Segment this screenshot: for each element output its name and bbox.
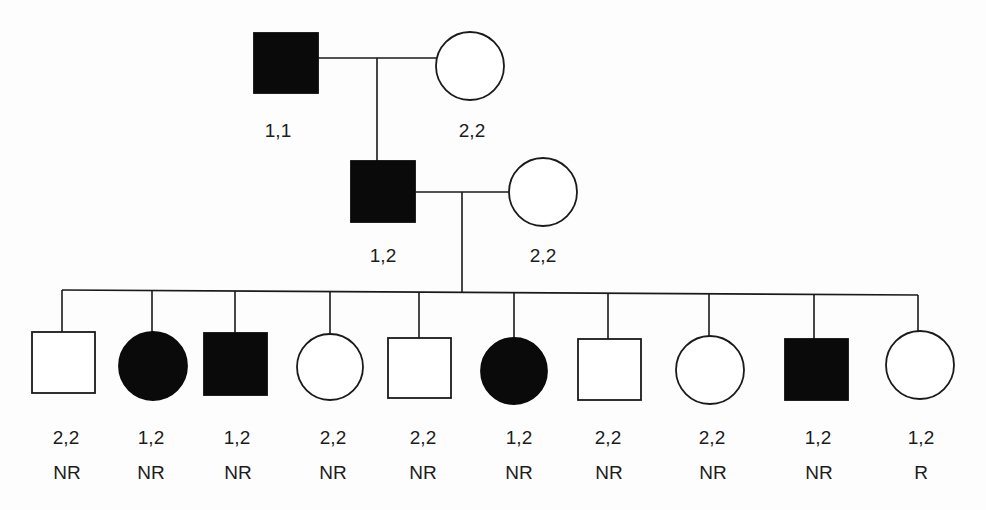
gen3-child-4-genotype: 2,2 bbox=[320, 427, 346, 448]
gen3-child-3-status: NR bbox=[224, 462, 251, 483]
gen3-child-2-genotype: 1,2 bbox=[138, 427, 164, 448]
generation-3: 2,2 NR 1,2 NR 1,2 NR 2,2 NR bbox=[32, 290, 954, 483]
gen3-child-7-status: NR bbox=[595, 462, 622, 483]
gen3-child-1-genotype: 2,2 bbox=[53, 427, 79, 448]
gen3-child-7-unaffected-male-square bbox=[578, 339, 641, 400]
gen3-child-5: 2,2 NR bbox=[388, 292, 451, 483]
gen2-father-genotype: 1,2 bbox=[370, 245, 396, 266]
pedigree-svg: 1,1 2,2 1,2 2,2 2,2 NR bbox=[0, 0, 986, 510]
gen3-child-8: 2,2 NR bbox=[676, 294, 744, 483]
gen3-child-4: 2,2 NR bbox=[297, 291, 363, 483]
gen3-child-8-unaffected-female-circle bbox=[676, 336, 744, 404]
gen3-child-7: 2,2 NR bbox=[578, 293, 641, 483]
gen1-father-genotype: 1,1 bbox=[265, 120, 291, 141]
gen3-child-4-status: NR bbox=[319, 462, 346, 483]
gen3-child-6: 1,2 NR bbox=[481, 293, 547, 483]
gen3-child-4-unaffected-female-circle bbox=[297, 334, 363, 400]
generation-1: 1,1 2,2 bbox=[254, 32, 504, 161]
gen3-child-2-status: NR bbox=[137, 462, 164, 483]
gen3-child-10-unaffected-female-circle bbox=[886, 331, 954, 399]
gen3-sibship-line bbox=[62, 290, 918, 295]
gen3-child-1: 2,2 NR bbox=[32, 290, 95, 483]
gen2-father-affected-male-square bbox=[351, 161, 415, 222]
gen3-child-5-genotype: 2,2 bbox=[410, 427, 436, 448]
gen3-child-7-genotype: 2,2 bbox=[595, 427, 621, 448]
gen3-child-1-unaffected-male-square bbox=[32, 332, 95, 393]
gen3-child-8-genotype: 2,2 bbox=[699, 427, 725, 448]
gen3-child-9-status: NR bbox=[805, 462, 832, 483]
gen3-child-9-affected-male-square bbox=[785, 339, 848, 400]
gen3-child-8-status: NR bbox=[699, 462, 726, 483]
gen3-child-10-status: R bbox=[914, 462, 928, 483]
gen3-child-5-unaffected-male-square bbox=[388, 338, 451, 398]
gen3-child-6-genotype: 1,2 bbox=[506, 427, 532, 448]
gen3-child-6-status: NR bbox=[505, 462, 532, 483]
pedigree-diagram: 1,1 2,2 1,2 2,2 2,2 NR bbox=[0, 0, 986, 510]
gen3-child-2-affected-female-circle bbox=[119, 332, 187, 400]
gen3-child-3-genotype: 1,2 bbox=[224, 427, 250, 448]
gen3-child-5-status: NR bbox=[409, 462, 436, 483]
gen3-child-9: 1,2 NR bbox=[785, 294, 848, 483]
gen3-child-3: 1,2 NR bbox=[204, 291, 267, 483]
gen3-child-10-genotype: 1,2 bbox=[908, 427, 934, 448]
gen1-father-affected-male-square bbox=[254, 33, 318, 93]
gen2-mother-unaffected-female-circle bbox=[509, 158, 577, 226]
gen3-child-6-affected-female-circle bbox=[481, 338, 547, 404]
gen3-child-10: 1,2 R bbox=[886, 295, 954, 483]
generation-2: 1,2 2,2 bbox=[351, 158, 577, 292]
gen3-child-1-status: NR bbox=[53, 462, 80, 483]
gen3-child-2: 1,2 NR bbox=[119, 290, 187, 483]
gen2-mother-genotype: 2,2 bbox=[530, 245, 556, 266]
gen3-child-3-affected-male-square bbox=[204, 333, 267, 395]
gen1-mother-unaffected-female-circle bbox=[436, 32, 504, 100]
gen3-child-9-genotype: 1,2 bbox=[805, 427, 831, 448]
gen1-mother-genotype: 2,2 bbox=[459, 120, 485, 141]
